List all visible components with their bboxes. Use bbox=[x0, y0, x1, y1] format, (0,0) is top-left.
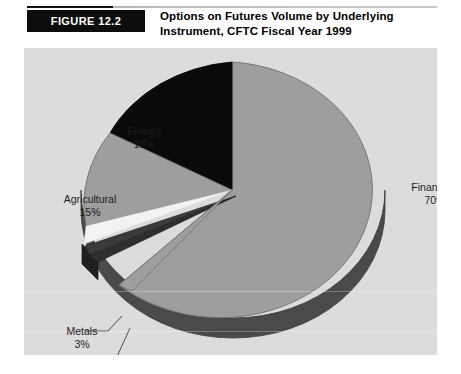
slice-label-agricultural-pct: 15% bbox=[42, 206, 138, 219]
slice-label-agricultural: Agricultural 15% bbox=[42, 193, 138, 219]
slice-label-energy-pct: 10% bbox=[106, 138, 182, 151]
slice-label-metals-name: Metals bbox=[50, 325, 114, 338]
slice-label-currencies: Currencies 2% bbox=[42, 353, 128, 355]
slice-label-financials: Financials 70% bbox=[396, 181, 437, 207]
figure-title: Options on Futures Volume by Underlying … bbox=[160, 9, 445, 39]
slice-label-energy-name: Energy bbox=[106, 125, 182, 138]
header-rule bbox=[27, 6, 437, 8]
figure-title-line-1: Options on Futures Volume by Underlying bbox=[160, 9, 445, 24]
figure-number-badge: FIGURE 12.2 bbox=[27, 10, 145, 32]
slice-label-agricultural-name: Agricultural bbox=[42, 193, 138, 206]
slice-label-financials-pct: 70% bbox=[396, 194, 437, 207]
slice-label-currencies-name: Currencies bbox=[42, 353, 128, 355]
chart-panel: Energy 10% Agricultural 15% Financials 7… bbox=[24, 48, 437, 355]
slice-label-metals: Metals 3% bbox=[50, 325, 114, 351]
figure-container: FIGURE 12.2 Options on Futures Volume by… bbox=[0, 0, 461, 374]
slice-label-metals-pct: 3% bbox=[50, 338, 114, 351]
slice-label-financials-name: Financials bbox=[396, 181, 437, 194]
slice-label-energy: Energy 10% bbox=[106, 125, 182, 151]
figure-title-line-2: Instrument, CFTC Fiscal Year 1999 bbox=[160, 24, 445, 39]
